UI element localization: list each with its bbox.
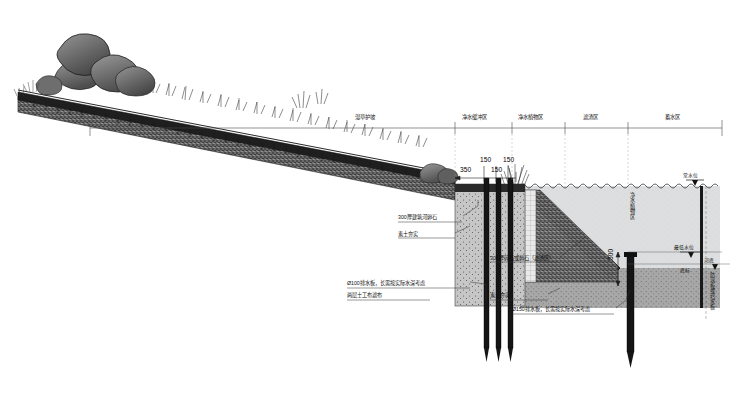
zone-label-plant: 净水植物区 [518, 114, 544, 120]
annotation-drain-pipe-100: Ø100排水板，长需按实际水深考虑 [347, 279, 425, 286]
drain-pile [484, 178, 489, 362]
annotation-compacted-soil-b: 素土夯实 [490, 291, 510, 298]
water-label-normal-level: 常水位 [683, 171, 698, 178]
dimension-350: 350 [460, 166, 471, 174]
dimension-150-c: 150 [503, 156, 514, 164]
drain-pile [496, 178, 501, 362]
vertical-label-plant-zone: 净水植物区 [629, 192, 636, 219]
zone-label-buffer: 净水缓冲区 [462, 114, 488, 120]
water-label-bottom-elev: 底标 [680, 266, 690, 273]
zone-label-storage: 蓄水区 [665, 114, 680, 120]
drain-pile [508, 178, 513, 362]
boulder-group [14, 34, 155, 96]
zone-label-slope-protection: 湿草护坡 [355, 114, 375, 120]
drain-pile-group-left [484, 178, 513, 362]
drawing-canvas: 湿草护坡 净水缓冲区 净水植物区 滤渣区 蓄水区 350 150 150 150… [0, 0, 740, 403]
dimension-500: 500 [607, 249, 615, 260]
water-label-lowest-level: 最低水位 [674, 243, 694, 250]
annotation-cobble-layer: 300厚建筑河卵石 [398, 213, 437, 220]
slope-embankment [18, 81, 455, 200]
annotation-gravel-filter: 300厚碎石或卵石（滤渣区） [490, 254, 554, 261]
water-label-river-bed: 河底 [704, 256, 714, 263]
vertical-label-wave-board: 防浪板或挡水板 [709, 272, 716, 310]
zone-label-filter: 滤渣区 [583, 114, 598, 120]
compacted-soil [455, 184, 525, 306]
dimension-150-b: 150 [491, 166, 502, 174]
annotation-compacted-soil-a: 素土夯实 [398, 230, 418, 237]
dimension-150-a: 150 [480, 156, 491, 164]
mid-slope-rocks [420, 164, 458, 184]
annotation-geotextile: 两层土工布滤布 [347, 291, 382, 298]
annotation-drain-pipe-150: Ø150排水板，长需按实际水深考虑 [512, 305, 590, 312]
